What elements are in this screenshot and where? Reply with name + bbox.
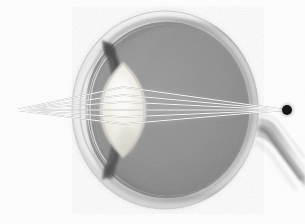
paper-grain-overlay (0, 0, 305, 224)
eye-diagram-figure: Cross-section of the human eye with conv… (0, 0, 305, 224)
eye-cross-section-svg (0, 0, 305, 224)
